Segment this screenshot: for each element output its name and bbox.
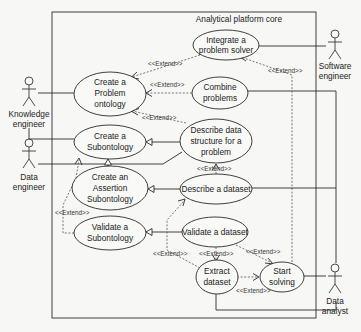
actor-data-engineer[interactable]: Data engineer — [13, 139, 46, 192]
actor-data-analyst[interactable]: Data analyst — [322, 264, 349, 316]
svg-text:<<Extend>>: <<Extend>> — [148, 60, 183, 67]
svg-text:Create a: Create a — [94, 77, 126, 87]
use-case-validate-subontology[interactable]: Validate a Subontology — [74, 216, 146, 250]
svg-text:Subontology: Subontology — [87, 142, 134, 152]
stick-figure-icon — [22, 139, 36, 168]
svg-text:<<Extend>>: <<Extend>> — [236, 287, 271, 294]
svg-text:<<Extend>>: <<Extend>> — [246, 248, 281, 255]
use-case-validate-dataset[interactable]: Validate a dataset — [182, 217, 249, 247]
svg-text:Start: Start — [273, 266, 291, 276]
svg-text:Describe data: Describe data — [190, 125, 242, 135]
svg-text:engineer: engineer — [13, 119, 46, 129]
svg-text:<<Extend>>: <<Extend>> — [150, 81, 185, 88]
gen-arrowhead — [105, 159, 112, 165]
svg-text:<<Extend>>: <<Extend>> — [199, 250, 234, 257]
svg-text:Create an: Create an — [92, 172, 129, 182]
use-case-extract-dataset[interactable]: Extract dataset — [196, 260, 238, 294]
stick-figure-icon — [328, 264, 342, 293]
svg-text:Extract: Extract — [204, 266, 231, 276]
assoc-knowledge-create-subontology — [29, 128, 74, 139]
svg-text:<<Extend>>: <<Extend>> — [268, 67, 303, 74]
gen-arrowhead — [148, 186, 154, 193]
svg-text:ontology: ontology — [94, 99, 126, 109]
use-case-create-assertion-subontology[interactable]: Create an Assertion Subontology — [72, 166, 148, 210]
svg-text:Validate a dataset: Validate a dataset — [182, 227, 249, 237]
stick-figure-icon — [22, 77, 36, 106]
svg-text:problem solver: problem solver — [199, 45, 254, 55]
svg-text:Combine: Combine — [203, 82, 237, 92]
svg-text:engineer: engineer — [13, 182, 46, 192]
use-case-describe-data-structure[interactable]: Describe data structure for a problem — [180, 119, 252, 163]
svg-text:Assertion: Assertion — [93, 183, 128, 193]
svg-text:<<Extend>>: <<Extend>> — [197, 165, 232, 172]
extend-start-integrate — [241, 57, 292, 262]
svg-text:Data: Data — [20, 172, 38, 182]
svg-text:Knowledge: Knowledge — [8, 109, 49, 119]
svg-text:Problem: Problem — [95, 88, 126, 98]
use-case-combine-problems[interactable]: Combine problems — [192, 77, 248, 109]
use-case-create-subontology[interactable]: Create a Subontology — [74, 125, 146, 159]
svg-text:engineer: engineer — [319, 71, 352, 81]
svg-text:problems: problems — [203, 93, 237, 103]
svg-text:problem: problem — [201, 147, 231, 157]
svg-text:<<Extend>>: <<Extend>> — [153, 250, 188, 257]
svg-text:Describe a dataset: Describe a dataset — [181, 184, 251, 194]
svg-text:Data: Data — [326, 296, 344, 306]
use-case-start-solving[interactable]: Start solving — [260, 262, 304, 292]
actor-knowledge-engineer[interactable]: Knowledge engineer — [8, 77, 49, 129]
svg-text:analyst: analyst — [322, 306, 349, 316]
svg-text:structure for a: structure for a — [190, 136, 242, 146]
use-case-diagram: Analytical platform core <<Extend>> <<Ex… — [0, 0, 361, 332]
use-case-describe-dataset[interactable]: Describe a dataset — [180, 174, 252, 204]
svg-text:<<Extend>>: <<Extend>> — [142, 114, 177, 121]
svg-text:dataset: dataset — [203, 277, 231, 287]
actor-software-engineer[interactable]: Software engineer — [319, 30, 352, 81]
svg-text:Integrate a: Integrate a — [206, 35, 246, 45]
use-case-create-problem-ontology[interactable]: Create a Problem ontology — [74, 72, 146, 116]
use-case-integrate-problem-solver[interactable]: Integrate a problem solver — [193, 30, 259, 60]
assoc-analyst-extract — [216, 294, 336, 310]
svg-text:Subontology: Subontology — [87, 233, 134, 243]
svg-text:Software: Software — [319, 61, 352, 71]
gen-arrowhead — [146, 139, 152, 146]
system-title: Analytical platform core — [196, 14, 283, 24]
gen-arrowhead — [146, 229, 152, 236]
svg-text:Validate a: Validate a — [92, 222, 129, 232]
svg-text:Create a: Create a — [94, 131, 126, 141]
svg-text:Subontology: Subontology — [87, 194, 134, 204]
stick-figure-icon — [328, 30, 342, 59]
svg-text:<<Extend>>: <<Extend>> — [55, 209, 90, 216]
svg-text:solving: solving — [269, 277, 295, 287]
